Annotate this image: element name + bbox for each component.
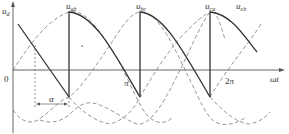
rectifier-waveform-diagram: ud 0 ωt π 2π α uab ubc uca ucb [0,0,289,134]
solid-output-waveform [18,12,257,97]
label-u-cb: ucb [236,1,246,12]
origin-label: 0 [4,74,9,84]
x-axis-arrow-icon [279,68,285,72]
y-axis-label: ud [2,6,11,17]
arrow-right-icon [64,103,68,106]
tick-pi: π [124,78,129,88]
label-u-ab: uab [66,1,77,12]
axes [11,1,285,133]
tick-2pi: 2π [225,76,235,86]
dot-mark [81,45,82,46]
y-axis-arrow-icon [11,1,15,7]
arrow-left-icon [36,103,40,106]
x-axis-label: ωt [270,74,279,84]
label-u-bc: ubc [136,1,147,12]
alpha-label: α [49,94,54,104]
label-u-ca: uca [205,1,215,12]
dashed-line-voltage-curves [13,12,270,125]
